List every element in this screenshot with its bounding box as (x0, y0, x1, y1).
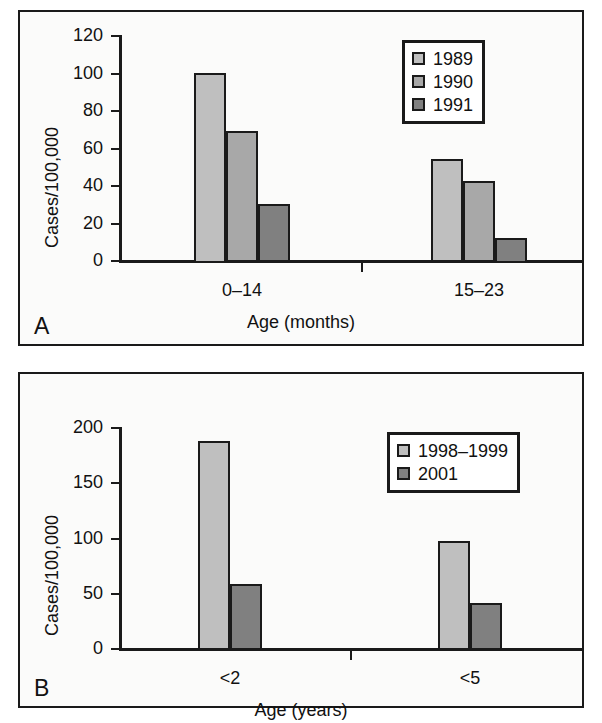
y-axis-tick (111, 185, 120, 187)
plot-area-a: 020406080100120Cases/100,0000–1415–23Age… (20, 12, 582, 344)
legend-item-label: 1990 (433, 73, 473, 91)
x-axis-tick (361, 263, 363, 272)
bar-<2-1998–1999 (198, 441, 230, 648)
bar-15–23-1989 (431, 159, 463, 260)
y-axis-tick-label: 150 (20, 473, 103, 491)
legend-item[interactable]: 2001 (397, 462, 508, 485)
legend-item[interactable]: 1998–1999 (397, 439, 508, 462)
y-axis-tick (111, 648, 120, 650)
legend-item[interactable]: 1990 (412, 70, 473, 93)
y-axis-tick (111, 427, 120, 429)
legend-item-label: 1998–1999 (418, 442, 508, 460)
legend-swatch-icon (412, 98, 425, 111)
figure-root: 020406080100120Cases/100,0000–1415–23Age… (0, 0, 602, 723)
legend-item[interactable]: 1989 (412, 47, 473, 70)
legend-swatch-icon (412, 75, 425, 88)
legend: 1998–19992001 (387, 432, 520, 493)
y-axis-tick (111, 73, 120, 75)
panel-b: 050100150200Cases/100,000<2<5Age (years)… (18, 372, 584, 708)
bar-15–23-1990 (463, 181, 495, 260)
y-axis-tick (111, 593, 120, 595)
bar-<5-1998–1999 (438, 541, 470, 648)
y-axis-tick-label: 100 (20, 64, 103, 82)
x-axis-tick (350, 651, 352, 660)
y-axis-tick-label: 0 (20, 639, 103, 657)
y-axis-title: Cases/100,000 (42, 127, 63, 248)
y-axis-tick-label: 80 (20, 101, 103, 119)
y-axis-tick-label: 120 (20, 26, 103, 44)
legend-swatch-icon (397, 444, 410, 457)
legend-item-label: 2001 (418, 465, 458, 483)
legend-item-label: 1989 (433, 50, 473, 68)
panel-a: 020406080100120Cases/100,0000–1415–23Age… (18, 10, 584, 346)
bar-0–14-1990 (226, 131, 258, 260)
legend-swatch-icon (412, 52, 425, 65)
x-axis-title: Age (months) (20, 312, 582, 333)
panel-letter-a: A (34, 313, 49, 340)
y-axis-tick (111, 223, 120, 225)
y-axis-tick (111, 482, 120, 484)
panel-letter-b: B (34, 675, 49, 702)
legend-swatch-icon (397, 467, 410, 480)
y-axis-tick (111, 538, 120, 540)
legend-item-label: 1991 (433, 96, 473, 114)
x-axis-category-label: 15–23 (454, 280, 504, 301)
bar-0–14-1991 (258, 204, 290, 260)
plot-area-b: 050100150200Cases/100,000<2<5Age (years)… (20, 374, 582, 706)
y-axis-tick (111, 35, 120, 37)
legend-item[interactable]: 1991 (412, 93, 473, 116)
y-axis-tick (111, 260, 120, 262)
x-axis-title: Age (years) (20, 700, 582, 721)
bar-<2-2001 (230, 584, 262, 648)
x-axis-category-label: <2 (220, 668, 241, 689)
bar-<5-2001 (470, 603, 502, 648)
y-axis-tick (111, 148, 120, 150)
bar-0–14-1989 (194, 73, 226, 261)
y-axis-tick (111, 110, 120, 112)
y-axis-title: Cases/100,000 (42, 515, 63, 636)
y-axis-tick-label: 0 (20, 251, 103, 269)
x-axis-category-label: <5 (460, 668, 481, 689)
bar-15–23-1991 (495, 238, 527, 261)
y-axis-tick-label: 200 (20, 418, 103, 436)
legend: 198919901991 (402, 40, 485, 124)
x-axis-category-label: 0–14 (222, 280, 262, 301)
